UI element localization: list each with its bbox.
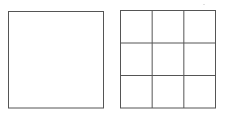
- diagram-canvas: [0, 0, 226, 117]
- grid-square: [121, 11, 216, 109]
- stray-dot: [203, 4, 204, 5]
- plain-square: [9, 12, 104, 109]
- plain-square-border: [9, 12, 104, 109]
- grid-square-border: [121, 11, 216, 109]
